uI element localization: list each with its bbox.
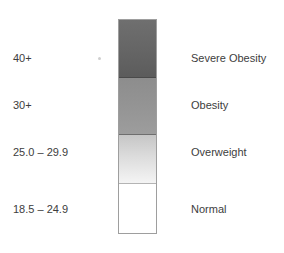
category-label-overweight: Overweight (191, 146, 247, 159)
range-label-severe-obesity: 40+ (13, 52, 32, 65)
category-label-normal: Normal (191, 203, 226, 216)
range-label-overweight: 25.0 – 29.9 (13, 146, 68, 159)
scale-segment-normal (119, 184, 156, 233)
bmi-scale-figure: 40+ 30+ 25.0 – 29.9 18.5 – 24.9 Severe O… (0, 0, 284, 253)
scale-segment-overweight (119, 135, 156, 184)
range-label-obesity: 30+ (13, 99, 32, 112)
category-label-severe-obesity: Severe Obesity (191, 52, 266, 65)
scale-segment-severe-obesity (119, 20, 156, 78)
scan-speck-artifact (98, 57, 101, 60)
range-label-normal: 18.5 – 24.9 (13, 203, 68, 216)
bmi-color-scale-bar (118, 19, 157, 234)
scale-segment-obesity (119, 78, 156, 135)
category-label-obesity: Obesity (191, 99, 228, 112)
